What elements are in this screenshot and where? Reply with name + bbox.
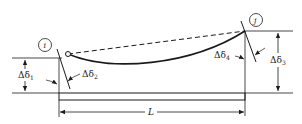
node-i-label: i bbox=[44, 41, 47, 50]
delta1-leader bbox=[46, 80, 57, 84]
right-rotation-tangent bbox=[241, 21, 256, 62]
delta2-leader bbox=[68, 74, 80, 81]
length-label: L bbox=[147, 107, 154, 117]
left-hinge bbox=[66, 52, 71, 57]
beam-deflection-diagram: Δδ1 Δδ2 i Δδ3 Δδ4 j L bbox=[0, 0, 302, 124]
delta2-label: Δδ2 bbox=[82, 69, 98, 80]
undeformed-beam bbox=[59, 93, 245, 100]
delta4-label: Δδ4 bbox=[214, 50, 230, 61]
delta3-rotation-leader bbox=[255, 48, 265, 55]
delta4-leader bbox=[235, 56, 244, 59]
